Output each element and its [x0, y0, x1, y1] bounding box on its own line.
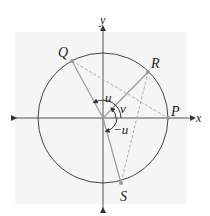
label-R: R	[150, 56, 160, 71]
y-axis-label: y	[99, 13, 106, 27]
unit-circle-diagram: y x Q R P S u v −u	[0, 0, 210, 216]
point-Q	[70, 59, 74, 63]
radius-OQ	[72, 61, 103, 118]
angle-v-label: v	[120, 101, 126, 116]
point-R	[146, 70, 150, 74]
label-Q: Q	[58, 45, 68, 60]
label-P: P	[170, 104, 180, 119]
diagram-svg: y x Q R P S u v −u	[0, 0, 210, 216]
label-S: S	[120, 189, 127, 204]
point-P	[166, 116, 170, 120]
angle-u-label: u	[105, 90, 112, 105]
angle-neg-u-label: −u	[113, 122, 129, 137]
x-axis-label: x	[195, 111, 202, 125]
point-S	[119, 181, 123, 185]
angle-v-arc	[112, 109, 116, 118]
